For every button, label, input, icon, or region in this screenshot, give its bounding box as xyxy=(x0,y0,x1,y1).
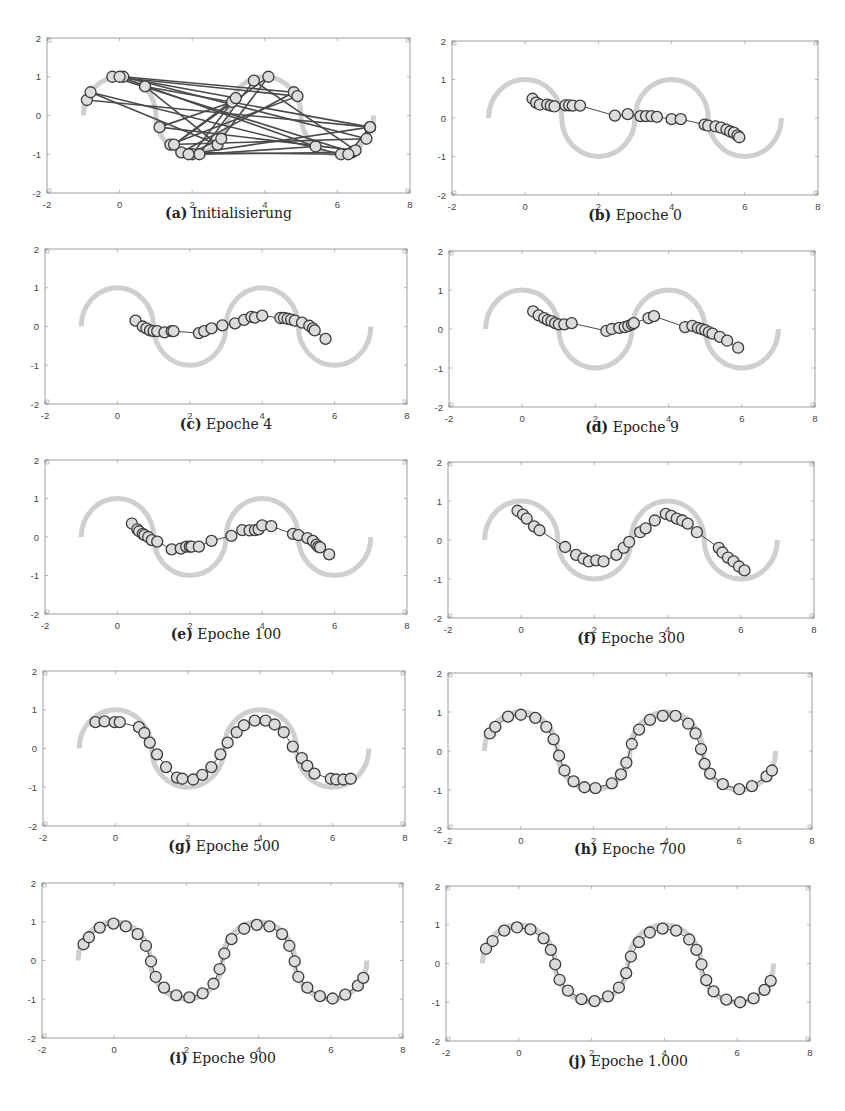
target-curve xyxy=(482,925,773,1003)
data-point xyxy=(545,944,556,955)
data-point xyxy=(487,936,498,947)
frame-corner-mark xyxy=(806,1037,809,1040)
data-point xyxy=(602,991,613,1002)
data-point xyxy=(708,986,719,997)
data-point xyxy=(701,975,712,986)
data-point xyxy=(696,959,707,970)
data-point xyxy=(621,968,632,979)
frame-corner-mark xyxy=(447,1037,450,1040)
data-point xyxy=(735,997,746,1008)
data-point xyxy=(671,925,682,936)
data-point xyxy=(511,922,522,933)
subplot-label: (j) xyxy=(568,1053,586,1069)
data-point xyxy=(765,975,776,986)
data-point xyxy=(538,933,549,944)
data-point xyxy=(499,925,510,936)
y-tick-label: 0 xyxy=(435,958,440,969)
data-point xyxy=(554,974,565,985)
data-point xyxy=(721,994,732,1005)
data-point xyxy=(589,996,600,1007)
data-point xyxy=(525,924,536,935)
subplot-title: Epoche 1.000 xyxy=(591,1053,688,1069)
data-point xyxy=(657,923,668,934)
data-point xyxy=(684,934,695,945)
data-point xyxy=(562,985,573,996)
y-tick-label: -2 xyxy=(432,1036,440,1047)
data-point xyxy=(644,927,655,938)
data-point xyxy=(613,982,624,993)
frame-corner-mark xyxy=(806,887,809,890)
data-point xyxy=(550,959,561,970)
frame-corner-mark xyxy=(447,887,450,890)
y-tick-label: 2 xyxy=(435,881,440,892)
data-point xyxy=(691,944,702,955)
data-point xyxy=(625,951,636,962)
data-point xyxy=(576,994,587,1005)
data-point xyxy=(633,937,644,948)
y-tick-label: 1 xyxy=(435,919,440,930)
data-point xyxy=(748,993,759,1004)
subplot-canvas: -202468210-1-2 xyxy=(0,0,845,1111)
y-tick-label: -1 xyxy=(432,997,440,1008)
subplot-caption: (j) Epoche 1.000 xyxy=(446,1053,810,1069)
